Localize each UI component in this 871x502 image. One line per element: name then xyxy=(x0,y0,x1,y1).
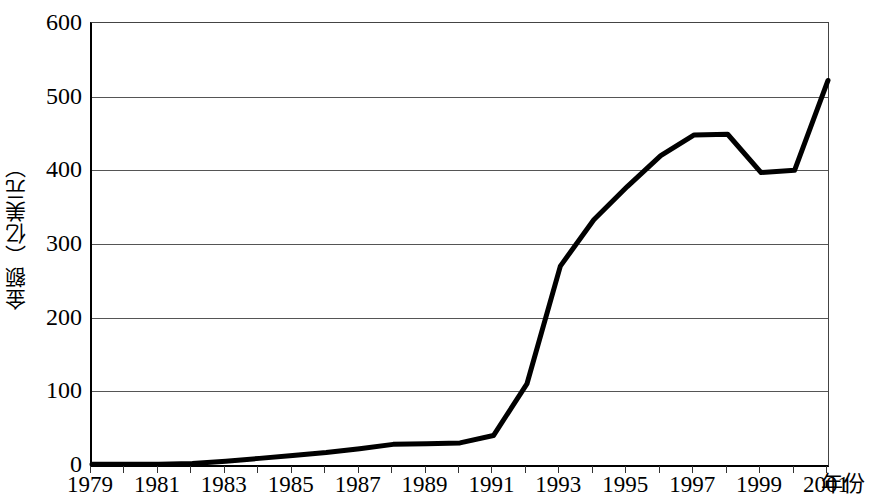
x-axis-tick-label: 1987 xyxy=(335,472,381,497)
x-axis-tick-label: 2001 xyxy=(803,472,849,497)
data-series-line xyxy=(92,23,828,465)
x-axis-tick-label: 1991 xyxy=(468,472,514,497)
x-axis-tick-label: 1981 xyxy=(134,472,180,497)
y-axis-tick-label: 100 xyxy=(8,378,82,402)
y-axis-tick-label: 600 xyxy=(8,10,82,34)
x-axis-tick-label: 1995 xyxy=(602,472,648,497)
x-axis-tick-labels: 年份 1979198119831985198719891991199319951… xyxy=(0,472,871,502)
line-chart: 金额（亿美元） 0100200300400500600 年份 197919811… xyxy=(0,0,871,502)
plot-area xyxy=(90,22,829,467)
x-axis-tick-label: 1999 xyxy=(736,472,782,497)
y-axis-tick-label: 500 xyxy=(8,84,82,108)
y-axis-tick-label: 400 xyxy=(8,157,82,181)
x-axis-tick-label: 1979 xyxy=(67,472,113,497)
x-axis-tick-label: 1993 xyxy=(535,472,581,497)
x-axis-tick-label: 1985 xyxy=(268,472,314,497)
x-axis-tick-label: 1983 xyxy=(201,472,247,497)
y-axis-tick-labels: 0100200300400500600 xyxy=(0,0,82,502)
y-axis-tick-label: 200 xyxy=(8,305,82,329)
y-axis-tick-label: 300 xyxy=(8,231,82,255)
x-axis-tick-label: 1997 xyxy=(669,472,715,497)
x-axis-tick-label: 1989 xyxy=(402,472,448,497)
